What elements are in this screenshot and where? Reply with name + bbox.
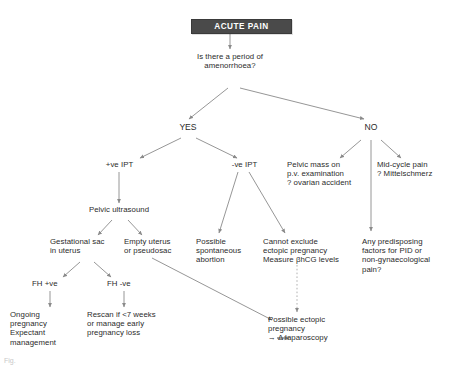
edge-ultrasound-emptyuterus [128, 220, 142, 235]
edge-question-no [240, 88, 364, 119]
edge-yes-iptneg [196, 138, 237, 158]
node-cannot-exclude-ectopic: Cannot exclude ectopic pregnancy Measure… [263, 237, 361, 265]
edge-gestsac-fhpos [63, 262, 80, 277]
node-ongoing-pregnancy: Ongoing pregnancy Expectant management [10, 310, 76, 347]
node-fh-positive: FH +ve [32, 279, 74, 288]
flowchart-acute-pain: ACUTE PAIN Is there a period of amenorrh… [0, 0, 459, 370]
edge-ultrasound-gestsac [98, 220, 112, 235]
node-gestational-sac: Gestational sac in uterus [50, 237, 124, 255]
node-pelvic-mass: Pelvic mass on p.v. examination ? ovaria… [287, 160, 369, 188]
node-fh-negative: FH -ve [107, 279, 149, 288]
figure-caption: Fig. [4, 357, 16, 365]
branch-label-yes: YES [165, 122, 211, 132]
node-empty-uterus: Empty uterus or pseudosac [124, 237, 194, 255]
page-title: ACUTE PAIN [191, 19, 292, 34]
node-spontaneous-abortion: Possible spontaneous abortion [196, 237, 262, 265]
edge-yes-iptpos [140, 138, 181, 158]
edge-gestsac-fhneg [94, 262, 111, 277]
edge-question-yes [189, 88, 228, 119]
node-ipt-negative: -ve IPT [222, 160, 267, 169]
node-pelvic-ultrasound: Pelvic ultrasound [79, 205, 159, 214]
edge-iptneg-abortion [219, 172, 238, 233]
edge-no-pelvicmass [340, 140, 361, 158]
node-ipt-positive: +ve IPT [96, 160, 143, 169]
edge-no-midcycle [381, 140, 401, 158]
node-mid-cycle-pain: Mid-cycle pain ? Mittelschmerz [377, 160, 457, 178]
edge-iptneg-cannotexclude [249, 172, 285, 233]
node-rescan: Rescan if <7 weeks or manage early pregn… [87, 310, 181, 338]
node-predisposing-factors: Any predisposing factors for PID or non-… [362, 237, 455, 274]
node-question: Is there a period of amenorrhoea? [180, 52, 280, 70]
node-possible-ectopic: Possible ectopic pregnancy → Δ laparosco… [268, 315, 368, 343]
branch-label-no: NO [350, 122, 392, 132]
